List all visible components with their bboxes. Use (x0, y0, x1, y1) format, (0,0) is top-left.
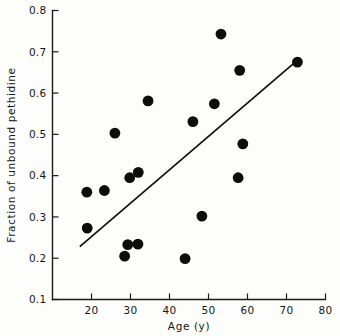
data-point (233, 172, 244, 183)
data-point (82, 223, 93, 234)
y-tick-label: 0.1 (29, 293, 47, 305)
data-point (119, 251, 130, 262)
y-tick-label: 0.4 (29, 169, 47, 181)
x-tick-label: 80 (319, 304, 333, 316)
y-tick-label: 0.3 (29, 211, 47, 223)
data-point (143, 96, 154, 107)
x-tick-label: 30 (124, 304, 138, 316)
data-point (180, 253, 191, 264)
y-tick-label: 0.7 (29, 46, 47, 58)
y-axis-title: Fraction of unbound pethidine (5, 67, 17, 242)
data-point (188, 116, 199, 127)
x-axis-ticks: 20304050607080 (85, 294, 333, 316)
x-tick-label: 40 (163, 304, 177, 316)
y-tick-label: 0.6 (29, 87, 47, 99)
data-point (122, 239, 133, 250)
x-tick-label: 20 (85, 304, 99, 316)
y-axis-ticks: 0.10.20.30.40.50.60.70.8 (29, 4, 59, 305)
data-point (133, 239, 144, 250)
data-point (81, 187, 92, 198)
data-point (99, 185, 110, 196)
data-point (234, 65, 245, 76)
x-axis-title: Age (y) (168, 320, 210, 332)
scatter-plot-figure: 0.10.20.30.40.50.60.70.8 20304050607080 … (0, 0, 340, 336)
regression-fit-line (80, 58, 300, 247)
data-point (216, 29, 227, 40)
data-point (110, 128, 121, 139)
data-series-points (81, 29, 302, 264)
x-tick-label: 70 (280, 304, 294, 316)
data-point (133, 167, 144, 178)
y-tick-label: 0.8 (29, 4, 47, 16)
data-point (237, 138, 248, 149)
x-tick-label: 50 (202, 304, 216, 316)
data-point (196, 211, 207, 222)
data-point (292, 57, 303, 68)
data-point (209, 98, 220, 109)
x-tick-label: 60 (241, 304, 255, 316)
y-tick-label: 0.5 (29, 128, 47, 140)
y-tick-label: 0.2 (29, 252, 47, 264)
plot-canvas: 0.10.20.30.40.50.60.70.8 20304050607080 … (0, 0, 340, 336)
